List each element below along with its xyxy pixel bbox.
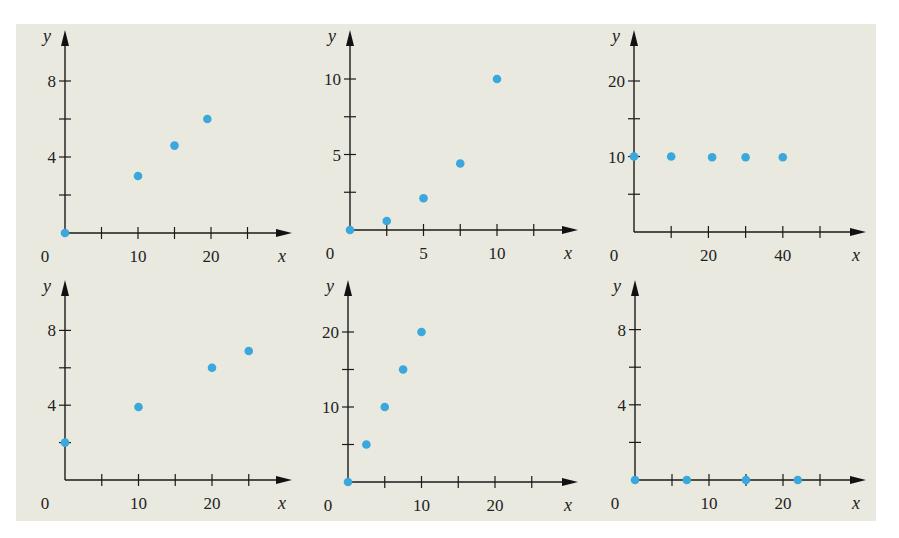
x-tick-label: 20 [775,494,792,513]
x-tick-label: 20 [204,494,221,513]
data-point [456,159,465,168]
y-tick-label: 5 [333,146,342,165]
y-tick-label: 20 [322,323,339,342]
y-arrow-icon [630,30,638,46]
x-arrow-icon [276,476,292,484]
x-tick-label: 10 [489,244,506,263]
data-point [134,172,143,181]
data-point [417,328,426,337]
scatter-panel-2: 0510510xy [324,26,578,263]
y-tick-label: 8 [48,321,57,340]
data-point [346,226,355,235]
y-tick-label: 10 [608,148,625,167]
x-axis-label: x [563,243,572,263]
data-point [399,365,408,374]
y-tick-label: 20 [608,72,625,91]
x-tick-label: 5 [419,244,428,263]
y-tick-label: 8 [48,72,57,91]
y-arrow-icon [61,280,69,296]
data-point [203,115,212,124]
data-point [631,476,640,485]
y-tick-label: 8 [618,321,627,340]
data-point [382,217,391,226]
x-tick-label: 10 [701,494,718,513]
x-axis-label: x [277,493,286,513]
x-tick-label: 0 [41,247,50,266]
data-point [134,403,143,412]
data-point [208,364,217,373]
y-tick-label: 10 [324,70,341,89]
x-arrow-icon [850,476,866,484]
y-axis-label: y [326,26,336,46]
y-arrow-icon [344,280,352,296]
data-point [779,153,788,162]
scatter-plot-grid: 0102048xy0510510xy020401020xy0102048xy01… [0,0,899,538]
x-tick-label: 20 [487,496,504,515]
y-axis-label: y [610,26,620,46]
data-point [794,476,803,485]
scatter-panel-6: 0102048xy [611,276,866,513]
y-axis-label: y [41,276,51,296]
x-tick-label: 0 [326,244,335,263]
x-tick-label: 20 [203,247,220,266]
x-arrow-icon [850,228,866,236]
scatter-panel-4: 0102048xy [41,276,292,513]
data-point [344,478,353,487]
data-point [742,476,751,485]
scatter-panel-1: 0102048xy [41,26,292,266]
y-tick-label: 10 [322,398,339,417]
x-tick-label: 10 [130,247,147,266]
x-axis-label: x [851,245,860,265]
x-arrow-icon [276,229,292,237]
y-axis-label: y [324,276,334,296]
data-point [380,403,389,412]
y-tick-label: 4 [48,148,57,167]
x-tick-label: 10 [413,496,430,515]
data-point [493,75,502,84]
y-arrow-icon [346,30,354,46]
x-arrow-icon [562,226,578,234]
y-axis-label: y [41,26,51,46]
scatter-panel-5: 010201020xy [322,276,578,515]
data-point [170,141,179,150]
y-axis-label: y [611,276,621,296]
x-tick-label: 0 [324,496,333,515]
data-point [630,152,639,161]
y-arrow-icon [61,30,69,46]
data-point [683,476,692,485]
x-tick-label: 40 [774,246,791,265]
x-tick-label: 0 [610,246,619,265]
x-tick-label: 10 [130,494,147,513]
x-tick-label: 0 [611,494,620,513]
data-point [362,440,371,449]
y-tick-label: 4 [48,396,57,415]
x-axis-label: x [851,493,860,513]
data-point [61,438,70,447]
x-tick-label: 0 [41,494,50,513]
data-point [61,229,70,238]
data-point [419,194,428,203]
data-point [244,347,253,356]
y-arrow-icon [631,280,639,296]
x-axis-label: x [563,495,572,515]
x-arrow-icon [562,478,578,486]
x-axis-label: x [277,246,286,266]
data-point [667,152,676,161]
scatter-panel-3: 020401020xy [608,26,866,265]
x-tick-label: 20 [700,246,717,265]
data-point [708,153,717,162]
data-point [741,153,750,162]
y-tick-label: 4 [618,396,627,415]
